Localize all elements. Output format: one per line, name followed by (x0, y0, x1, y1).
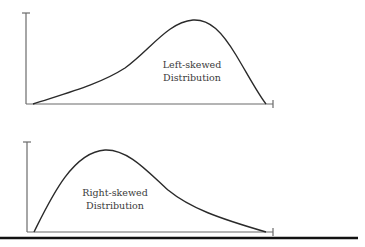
skewed-distributions-diagram: Left-skewed Distribution Right-skewed Di… (0, 0, 365, 247)
right-skewed-panel: Right-skewed Distribution (23, 142, 273, 236)
right-skewed-label-line1: Right-skewed (82, 187, 148, 198)
left-skewed-curve (33, 20, 266, 104)
right-skewed-label-line2: Distribution (86, 200, 144, 211)
right-skewed-curve (34, 150, 266, 232)
left-skewed-label-line1: Left-skewed (163, 59, 222, 70)
left-skewed-panel: Left-skewed Distribution (22, 13, 273, 108)
left-skewed-label-line2: Distribution (163, 72, 221, 83)
